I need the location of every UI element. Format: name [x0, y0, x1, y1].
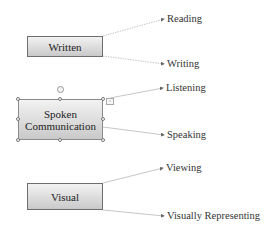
node-visual[interactable]: Visual: [27, 183, 103, 210]
node-visual-label: Visual: [51, 191, 79, 203]
resize-handle-n[interactable]: [58, 97, 62, 101]
connector-spoken-speaking: [103, 127, 164, 135]
leaf-writing[interactable]: Writing: [167, 58, 199, 70]
smart-tag-icon[interactable]: ^: [106, 98, 114, 105]
connector-visual-viewing: [103, 168, 163, 183]
resize-handle-ne[interactable]: [101, 97, 105, 101]
resize-handle-nw[interactable]: [16, 97, 20, 101]
node-spoken-label-line2: Communication: [25, 120, 96, 132]
connector-visual-visually-representing: [103, 210, 164, 216]
leaf-reading[interactable]: Reading: [167, 13, 202, 25]
connector-written-writing: [103, 56, 164, 64]
node-written-label: Written: [48, 41, 81, 53]
leaf-speaking[interactable]: Speaking: [167, 129, 206, 141]
leaf-listening[interactable]: Listening: [166, 82, 206, 94]
rotate-handle[interactable]: [57, 86, 64, 93]
resize-handle-sw[interactable]: [16, 138, 20, 142]
connector-written-reading: [103, 19, 164, 36]
node-spoken-communication[interactable]: Spoken Communication: [18, 99, 103, 140]
leaf-viewing[interactable]: Viewing: [166, 162, 202, 174]
resize-handle-se[interactable]: [101, 138, 105, 142]
node-spoken-label-line1: Spoken: [25, 108, 96, 120]
leaf-visually-representing[interactable]: Visually Representing: [167, 210, 260, 222]
resize-handle-w[interactable]: [16, 117, 20, 121]
resize-handle-s[interactable]: [58, 138, 62, 142]
connector-spoken-listening: [110, 88, 163, 98]
node-written[interactable]: Written: [27, 36, 103, 57]
resize-handle-e[interactable]: [101, 117, 105, 121]
